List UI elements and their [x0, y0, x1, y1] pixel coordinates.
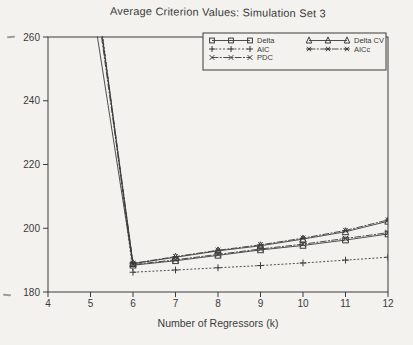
x-tick-label: 4 [45, 298, 51, 309]
scan-artifact [3, 294, 11, 296]
x-tick-label: 10 [297, 298, 309, 309]
x-tick-label: 7 [173, 298, 179, 309]
y-tick-label: 260 [23, 32, 40, 43]
x-tick-label: 12 [382, 298, 394, 309]
y-tick-label: 200 [23, 223, 40, 234]
x-axis-label: Number of Regressors (k) [48, 317, 388, 329]
y-tick-label: 220 [23, 159, 40, 170]
x-tick-label: 5 [88, 298, 94, 309]
x-tick-label: 8 [215, 298, 221, 309]
x-tick-label: 11 [340, 298, 351, 309]
legend-label: PDC [257, 53, 273, 62]
x-tick-label: 6 [130, 298, 136, 309]
scanned-chart-page: Average Criterion Values: Simulation Set… [0, 0, 413, 345]
y-tick-label: 180 [23, 287, 40, 298]
x-axis-ticks: 456789101112 [45, 292, 394, 309]
x-tick-label: 9 [258, 298, 264, 309]
y-axis-ticks: 180200220240260 [23, 32, 48, 298]
y-tick-label: 240 [23, 95, 40, 106]
legend-box: DeltaAICPDCDelta CVAICc [203, 33, 386, 70]
legend-label: AICc [354, 45, 371, 54]
plot-area: 180200220240260456789101112DeltaAICPDCDe… [0, 0, 413, 345]
